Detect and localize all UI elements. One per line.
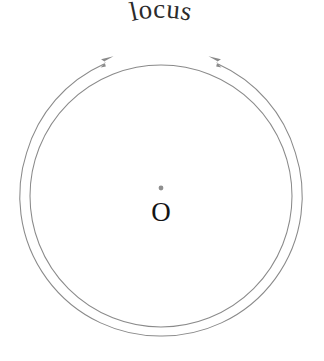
center-point-dot	[159, 186, 164, 191]
center-point-label: O	[151, 197, 171, 227]
figure-canvas: locus O	[0, 0, 324, 361]
locus-direction-arc-left	[20, 64, 161, 336]
locus-diagram-svg: locus O	[0, 0, 324, 361]
locus-label-textpath: locus	[127, 0, 195, 27]
arrow-head-left	[101, 56, 114, 67]
locus-label: locus	[127, 0, 195, 27]
arrow-head-right	[209, 56, 222, 67]
locus-circle	[30, 65, 292, 327]
locus-direction-arc-right	[161, 64, 302, 336]
